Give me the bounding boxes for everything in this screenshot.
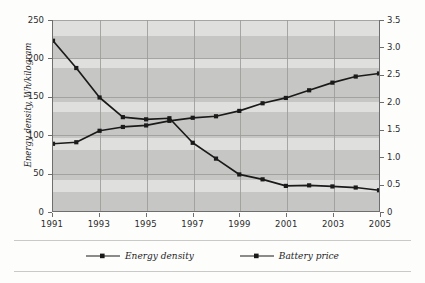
tick-mark <box>286 213 287 217</box>
data-point-marker <box>237 172 241 176</box>
data-point-marker <box>74 140 78 144</box>
tick-mark <box>48 58 52 59</box>
data-point-marker <box>330 184 334 188</box>
data-point-marker <box>307 183 311 187</box>
y-axis-right-tick-label: 0.5 <box>387 179 423 189</box>
tick-mark <box>380 130 384 131</box>
tick-mark <box>380 102 384 103</box>
tick-mark <box>380 185 384 186</box>
data-point-marker <box>144 117 148 121</box>
data-point-marker <box>354 185 358 189</box>
y-axis-right-tick-label: 1.0 <box>387 152 423 162</box>
data-point-marker <box>237 109 241 113</box>
tick-mark <box>380 20 384 21</box>
y-axis-left-tick-label: 150 <box>8 91 44 101</box>
x-axis-tick-label: 2001 <box>266 219 306 229</box>
plot-area <box>52 20 380 212</box>
tick-mark <box>52 213 53 217</box>
tick-mark <box>146 213 147 217</box>
legend-label-battery-price: Battery price <box>279 251 339 261</box>
x-axis-tick-label: 1999 <box>219 219 259 229</box>
tick-mark <box>48 135 52 136</box>
data-point-marker <box>214 114 218 118</box>
data-point-marker <box>284 184 288 188</box>
x-axis-tick-label: 2003 <box>313 219 353 229</box>
data-point-marker <box>191 141 195 145</box>
legend-item-energy-density: Energy density <box>86 251 194 261</box>
legend-label-energy-density: Energy density <box>125 251 194 261</box>
tick-mark <box>333 213 334 217</box>
tick-mark <box>99 213 100 217</box>
data-point-marker <box>53 142 55 146</box>
tick-mark <box>48 174 52 175</box>
tick-mark <box>380 75 384 76</box>
data-point-marker <box>214 157 218 161</box>
series-lines <box>53 20 379 211</box>
tick-mark <box>239 213 240 217</box>
y-axis-left-tick-label: 100 <box>8 130 44 140</box>
y-axis-right-tick-label: 3.0 <box>387 42 423 52</box>
y-axis-left-tick-label: 200 <box>8 53 44 63</box>
tick-mark <box>193 213 194 217</box>
legend-line-marker-icon <box>86 251 120 261</box>
chart-legend: Energy density Battery price <box>14 240 411 272</box>
y-axis-right-tick-label: 0 <box>387 207 423 217</box>
y-axis-right-tick-label: 1.5 <box>387 124 423 134</box>
y-axis-right-tick-label: 3.5 <box>387 15 423 25</box>
data-point-marker <box>167 116 171 120</box>
data-point-marker <box>260 101 264 105</box>
data-point-marker <box>307 88 311 92</box>
data-point-marker <box>97 95 101 99</box>
data-point-marker <box>97 129 101 133</box>
data-point-marker <box>377 188 379 192</box>
y-axis-left-title: Energy density, Wh/kilogram <box>23 25 33 185</box>
data-point-marker <box>121 125 125 129</box>
y-axis-left-tick-label: 250 <box>8 15 44 25</box>
data-point-marker <box>144 123 148 127</box>
tick-mark <box>380 213 381 217</box>
x-axis-tick-label: 1993 <box>79 219 119 229</box>
data-point-marker <box>74 66 78 70</box>
chart-figure: Energy density, Wh/kilogram Price, US$/W… <box>0 0 425 283</box>
tick-mark <box>48 97 52 98</box>
data-point-marker <box>191 116 195 120</box>
data-point-marker <box>330 81 334 85</box>
y-axis-left-tick-label: 50 <box>8 168 44 178</box>
series-line-energy-density <box>53 73 379 143</box>
x-axis-tick-label: 1995 <box>126 219 166 229</box>
legend-item-battery-price: Battery price <box>240 251 339 261</box>
data-point-marker <box>260 177 264 181</box>
data-point-marker <box>284 96 288 100</box>
y-axis-right-tick-label: 2.0 <box>387 97 423 107</box>
tick-mark <box>380 157 384 158</box>
x-axis-tick-label: 1997 <box>173 219 213 229</box>
x-axis-tick-label: 2005 <box>360 219 400 229</box>
y-axis-left-tick-label: 0 <box>8 207 44 217</box>
tick-mark <box>48 20 52 21</box>
legend-line-marker-icon <box>240 251 274 261</box>
y-axis-right-tick-label: 2.5 <box>387 69 423 79</box>
data-point-marker <box>354 74 358 78</box>
tick-mark <box>380 47 384 48</box>
data-point-marker <box>53 39 55 43</box>
data-point-marker <box>121 115 125 119</box>
data-point-marker <box>377 71 379 75</box>
x-axis-tick-label: 1991 <box>32 219 72 229</box>
